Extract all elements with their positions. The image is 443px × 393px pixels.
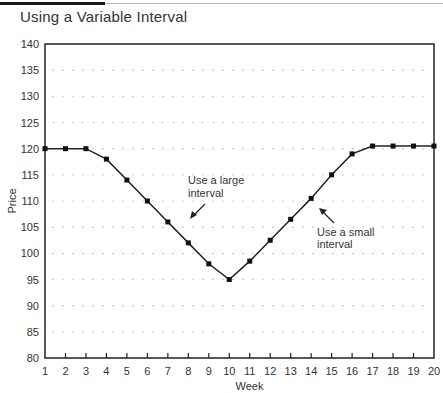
- grid-dot: [302, 148, 303, 149]
- grid-dot: [382, 122, 383, 123]
- grid-dot: [162, 70, 163, 71]
- grid-dot: [122, 96, 123, 97]
- grid-dot: [332, 148, 333, 149]
- grid-dot: [412, 227, 413, 228]
- grid-dot: [162, 122, 163, 123]
- grid-dot: [392, 279, 393, 280]
- grid-dot: [322, 279, 323, 280]
- y-tick-label: 120: [21, 143, 39, 155]
- grid-dot: [242, 331, 243, 332]
- grid-dot: [252, 96, 253, 97]
- data-point-marker: [329, 172, 334, 177]
- grid-dot: [142, 122, 143, 123]
- grid-dot: [62, 331, 63, 332]
- data-point-marker: [288, 217, 293, 222]
- grid-dot: [62, 70, 63, 71]
- grid-dot: [52, 227, 53, 228]
- grid-dot: [82, 96, 83, 97]
- data-point-marker: [83, 146, 88, 151]
- grid-dot: [52, 305, 53, 306]
- y-tick-label: 140: [21, 38, 39, 50]
- grid-dot: [272, 305, 273, 306]
- grid-dot: [112, 200, 113, 201]
- grid-dot: [372, 122, 373, 123]
- grid-dot: [182, 305, 183, 306]
- x-tick-label: 16: [346, 365, 358, 377]
- grid-dot: [72, 227, 73, 228]
- grid-dot: [422, 148, 423, 149]
- grid-dot: [322, 96, 323, 97]
- grid-dot: [362, 122, 363, 123]
- grid-dot: [352, 253, 353, 254]
- grid-dot: [52, 174, 53, 175]
- grid-dot: [282, 174, 283, 175]
- grid-dot: [142, 70, 143, 71]
- grid-dot: [262, 279, 263, 280]
- grid-dot: [402, 174, 403, 175]
- grid-dot: [52, 70, 53, 71]
- grid-dot: [262, 96, 263, 97]
- grid-dot: [192, 122, 193, 123]
- grid-dot: [92, 279, 93, 280]
- grid-dot: [72, 70, 73, 71]
- grid-dot: [102, 70, 103, 71]
- grid-dot: [122, 148, 123, 149]
- grid-dot: [272, 96, 273, 97]
- grid-dot: [292, 70, 293, 71]
- grid-dot: [212, 148, 213, 149]
- grid-dot: [142, 331, 143, 332]
- grid-dot: [302, 227, 303, 228]
- grid-dot: [142, 279, 143, 280]
- grid-dot: [152, 122, 153, 123]
- grid-dot: [382, 227, 383, 228]
- grid-dot: [342, 200, 343, 201]
- grid-dot: [202, 70, 203, 71]
- grid-dot: [232, 331, 233, 332]
- grid-dot: [102, 253, 103, 254]
- grid-dot: [172, 148, 173, 149]
- grid-dot: [182, 70, 183, 71]
- grid-dot: [272, 331, 273, 332]
- x-tick-label: 1: [42, 365, 48, 377]
- grid-dot: [112, 305, 113, 306]
- grid-dot: [112, 227, 113, 228]
- grid-dot: [332, 305, 333, 306]
- grid-dot: [292, 227, 293, 228]
- grid-dot: [172, 253, 173, 254]
- grid-dot: [422, 305, 423, 306]
- grid-dot: [262, 253, 263, 254]
- grid-dot: [412, 70, 413, 71]
- grid-dot: [422, 174, 423, 175]
- grid-dot: [202, 200, 203, 201]
- grid-dot: [262, 70, 263, 71]
- grid-dot: [102, 200, 103, 201]
- grid-dot: [122, 122, 123, 123]
- grid-dot: [282, 200, 283, 201]
- grid-dot: [202, 279, 203, 280]
- grid-dot: [392, 122, 393, 123]
- grid-dot: [242, 148, 243, 149]
- grid-dot: [302, 70, 303, 71]
- grid-dot: [122, 279, 123, 280]
- grid-dot: [52, 122, 53, 123]
- grid-dot: [192, 331, 193, 332]
- grid-dot: [392, 174, 393, 175]
- grid-dot: [192, 279, 193, 280]
- grid-dot: [62, 253, 63, 254]
- grid-dot: [372, 200, 373, 201]
- grid-dot: [392, 253, 393, 254]
- grid-dot: [282, 122, 283, 123]
- grid-dot: [152, 96, 153, 97]
- grid-dot: [302, 279, 303, 280]
- grid-dot: [182, 96, 183, 97]
- data-point-marker: [165, 219, 170, 224]
- grid-dot: [292, 174, 293, 175]
- grid-dot: [332, 70, 333, 71]
- data-point-marker: [43, 146, 48, 151]
- grid-dot: [242, 227, 243, 228]
- grid-dot: [382, 96, 383, 97]
- line-chart: 8085909510010511011512012513013514012345…: [0, 0, 443, 393]
- x-tick-label: 20: [428, 365, 440, 377]
- grid-dot: [152, 331, 153, 332]
- grid-dot: [92, 227, 93, 228]
